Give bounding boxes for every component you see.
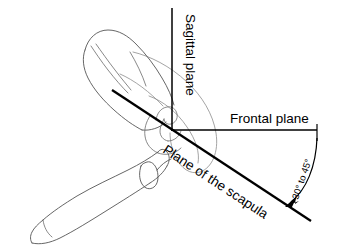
angle-range-label: 30° to 45° xyxy=(289,157,313,200)
scapula-plane-line xyxy=(112,90,311,221)
frontal-plane-label: Frontal plane xyxy=(230,111,309,126)
sagittal-plane-label: Sagittal plane xyxy=(183,14,198,96)
clavicle-outline xyxy=(31,149,170,243)
plane-of-scapula-label: Plane of the scapula xyxy=(160,142,271,222)
acromion-spine-outline xyxy=(83,30,174,130)
coracoid-process-nub xyxy=(140,159,171,189)
diagram-canvas: Sagittal plane Frontal plane Plane of th… xyxy=(0,0,338,249)
scapula-plane-figure: Sagittal plane Frontal plane Plane of th… xyxy=(0,0,338,249)
scapula-medial-border-faint xyxy=(120,74,163,106)
